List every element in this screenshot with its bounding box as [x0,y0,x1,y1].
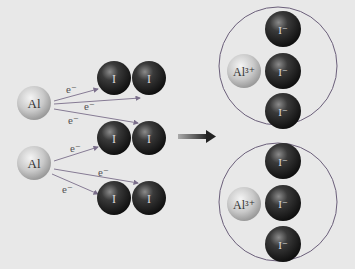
svg-text:I: I [112,132,116,146]
cation-label: Al³⁺ [233,65,255,79]
electron-label: e⁻ [62,183,73,195]
iodine-molecule: I I [97,121,166,155]
atom-label: Al [28,96,41,111]
anion-label: I⁻ [278,239,288,251]
anion-label: I⁻ [278,198,288,210]
svg-text:I: I [112,72,116,86]
electron-label: e⁻ [84,100,95,112]
aluminum-iodide-unit: Al³⁺ I⁻ I⁻ I⁻ [219,143,337,262]
svg-text:I: I [112,192,116,206]
electron-label: e⁻ [98,166,109,178]
electron-label: e⁻ [70,142,81,154]
anion-label: I⁻ [278,156,288,168]
svg-text:I: I [147,72,151,86]
aluminum-iodide-unit: Al³⁺ I⁻ I⁻ I⁻ [219,7,337,129]
reaction-arrow-icon [178,130,216,143]
anion-label: I⁻ [278,24,288,36]
iodine-molecule: I I [97,181,166,215]
aluminum-atom: Al [17,86,51,120]
svg-text:I: I [147,132,151,146]
anion-label: I⁻ [278,106,288,118]
svg-text:I: I [147,192,151,206]
electron-label: e⁻ [68,114,79,126]
atom-label: Al [28,156,41,171]
electron-label: e⁻ [66,83,77,95]
diagram-canvas: e⁻ e⁻ e⁻ e⁻ e⁻ e⁻ Al Al I I I I I I [0,0,355,269]
aluminum-atom: Al [17,146,51,180]
iodine-molecule: I I [97,61,166,95]
anion-label: I⁻ [278,66,288,78]
cation-label: Al³⁺ [233,198,255,212]
